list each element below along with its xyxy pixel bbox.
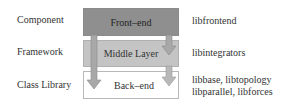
arrow-front-to-back-icon xyxy=(87,35,101,89)
library-libbase-libtopology: libbase, libtopology xyxy=(192,74,271,85)
library-libfrontend: libfrontend xyxy=(192,15,236,26)
arrow-middle-to-back-icon xyxy=(162,66,176,86)
library-libintegrators: libintegrators xyxy=(192,47,245,58)
arrow-front-to-middle-icon xyxy=(162,35,176,55)
library-libparallel-libforces: libparallel, libforces xyxy=(192,86,273,97)
